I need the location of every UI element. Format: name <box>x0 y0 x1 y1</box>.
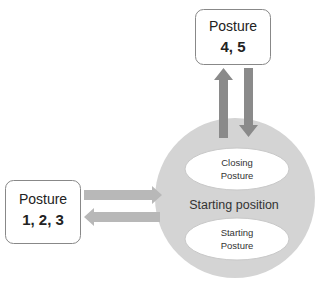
posture-diagram: Closing Posture Starting position Starti… <box>0 0 323 284</box>
arrow-right-icon <box>84 186 162 204</box>
starting-posture-ellipse: Starting Posture <box>185 218 289 260</box>
closing-posture-ellipse: Closing Posture <box>185 148 289 190</box>
posture-1-2-3-box: Posture 1, 2, 3 <box>6 181 81 244</box>
posture-1-2-3-numbers: 1, 2, 3 <box>22 211 64 228</box>
posture-4-5-title: Posture <box>209 18 257 34</box>
arrow-left-icon <box>84 208 160 226</box>
posture-1-2-3-title: Posture <box>19 191 67 207</box>
posture-4-5-box: Posture 4, 5 <box>196 10 271 65</box>
arrow-down-icon <box>239 68 258 137</box>
closing-posture-line1: Closing <box>221 157 253 168</box>
posture-4-5-numbers: 4, 5 <box>220 38 245 55</box>
starting-posture-line1: Starting <box>221 227 254 238</box>
starting-posture-line2: Posture <box>221 240 254 251</box>
closing-posture-line2: Posture <box>221 170 254 181</box>
starting-position-label: Starting position <box>189 198 279 212</box>
